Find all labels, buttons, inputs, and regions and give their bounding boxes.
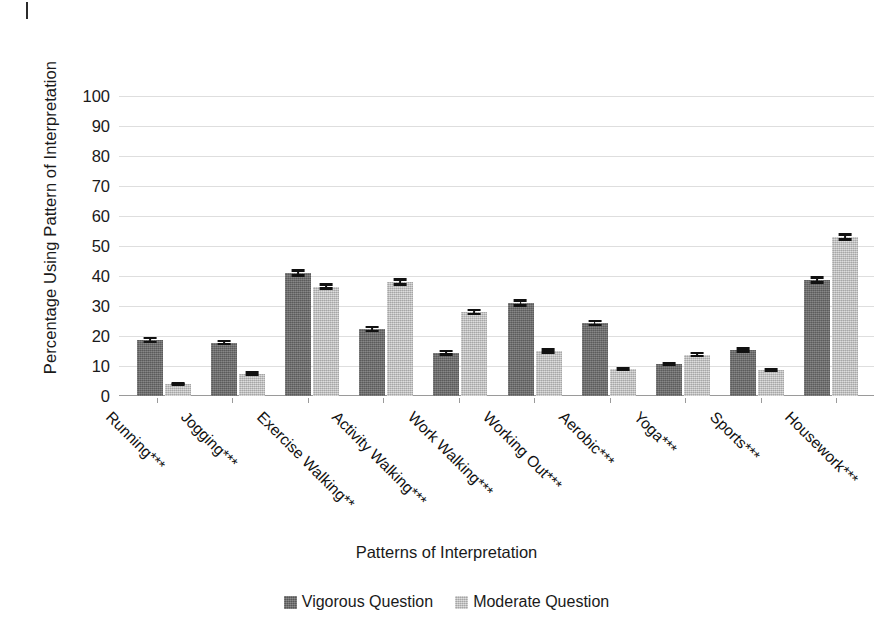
bar-slot [137,340,163,396]
bar-slot [730,350,756,396]
bar-slot [239,374,265,397]
bar[interactable] [582,323,608,396]
legend-item[interactable]: Moderate Question [455,593,609,611]
error-bar [520,299,522,306]
bar-slot [165,384,191,396]
y-axis-tick-label: 30 [92,297,110,316]
x-axis-tick-labels: Running***Jogging***Exercise Walking**Ac… [119,398,874,528]
bar[interactable] [359,329,385,396]
x-axis-tick [459,398,460,403]
bar[interactable] [387,282,413,396]
bar[interactable] [832,237,858,396]
y-axis-tick-label: 20 [92,327,110,346]
bar[interactable] [165,384,191,396]
bar[interactable] [804,280,830,396]
bar[interactable] [461,312,487,396]
y-axis-tick-label: 90 [92,117,110,136]
x-axis-title: Patterns of Interpretation [0,543,893,562]
x-axis-tick [761,398,762,403]
legend-label: Moderate Question [473,593,609,611]
bar-slot [313,287,339,397]
x-axis-tick [685,398,686,403]
y-axis-tick-label: 50 [92,237,110,256]
y-axis-tick-label: 40 [92,267,110,286]
bar-group [127,96,201,396]
x-axis-tick-label: Running*** [102,408,168,474]
bar[interactable] [758,370,784,396]
bar-slot [582,323,608,396]
error-bar [325,283,327,290]
x-axis-tick [836,398,837,403]
error-bar [548,348,550,353]
error-bar [770,368,772,373]
error-bar [177,382,179,386]
bar-slot [387,282,413,396]
y-axis-tick-label: 0 [101,387,110,406]
error-bar [251,371,253,376]
error-bar [844,233,846,240]
bar-group [275,96,349,396]
bar-group [201,96,275,396]
bar[interactable] [730,350,756,396]
bar[interactable] [610,369,636,396]
error-bar [399,278,401,285]
error-bar [149,337,151,343]
chart-legend: Vigorous QuestionModerate Question [0,593,893,611]
error-bar [446,350,448,356]
bar-slot [656,364,682,396]
x-axis-tick-label: Jogging*** [178,408,242,472]
bar-group [572,96,646,396]
legend-item[interactable]: Vigorous Question [284,593,433,611]
bar[interactable] [508,303,534,396]
x-axis-tick [534,398,535,403]
legend-swatch-icon [284,596,297,609]
bar[interactable] [137,340,163,396]
error-bar [622,367,624,372]
bar[interactable] [285,273,311,396]
error-bar [668,362,670,367]
legend-label: Vigorous Question [302,593,433,611]
x-axis-tick-label: Working Out*** [480,408,566,494]
bar-slot [433,353,459,397]
page-margin-tick [26,2,28,19]
legend-swatch-icon [455,596,468,609]
bar[interactable] [656,364,682,396]
y-axis-tick-label: 100 [82,87,110,106]
error-bar [594,320,596,327]
bar-slot [804,280,830,396]
bar-group [349,96,423,396]
bar-groups [119,96,874,396]
y-axis-tick-label: 10 [92,357,110,376]
bar-slot [359,329,385,396]
x-axis-tick-label: Aerobic*** [555,408,618,471]
bar-group [794,96,868,396]
bar-slot [832,237,858,396]
bar-group [646,96,720,396]
bar[interactable] [684,355,710,396]
x-axis-tick [308,398,309,403]
bar[interactable] [536,351,562,396]
bar[interactable] [313,287,339,397]
error-bar [742,347,744,352]
error-bar [816,276,818,283]
bar-group [423,96,497,396]
bar-slot [536,351,562,396]
bar-chart-figure: Percentage Using Pattern of Interpretati… [0,0,893,633]
x-axis-tick-label: Sports*** [706,408,763,465]
bar[interactable] [433,353,459,397]
y-axis-tick-label: 70 [92,177,110,196]
x-axis-tick [232,398,233,403]
x-axis-tick [383,398,384,403]
bar[interactable] [211,343,237,396]
bar-slot [211,343,237,396]
bar-slot [461,312,487,396]
bar[interactable] [239,374,265,397]
plot-area: 0102030405060708090100 [119,96,874,396]
error-bar [223,340,225,345]
bar-slot [610,369,636,396]
x-axis-tick [610,398,611,403]
y-axis-tick-label: 60 [92,207,110,226]
error-bar [297,269,299,276]
y-axis-tick-label: 80 [92,147,110,166]
bar-slot [508,303,534,396]
